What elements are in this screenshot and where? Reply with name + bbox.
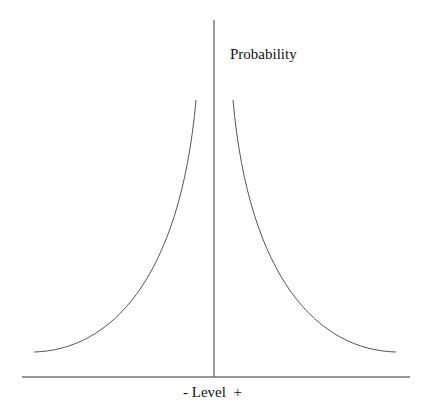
y-axis-label: Probability <box>230 46 297 63</box>
diagram-canvas <box>0 0 429 407</box>
left-curve <box>34 100 196 352</box>
x-axis-label: - Level + <box>183 384 242 401</box>
right-curve <box>233 100 396 352</box>
